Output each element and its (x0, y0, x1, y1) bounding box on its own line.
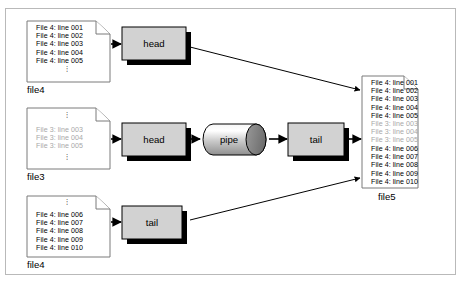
doc-dots-file3-bottom: ⋮ (36, 154, 98, 160)
doc-lines-file5-part3: File 4: line 006 File 4: line 007 File 4… (371, 145, 418, 186)
node-label-tail-mid: tail (288, 134, 344, 145)
doc-dots-file3-top: ⋮ (36, 112, 98, 118)
doc-label-file5: file5 (378, 191, 396, 202)
node-label-head-top: head (122, 38, 186, 49)
doc-lines-file4-top: File 4: line 001 File 4: line 002 File 4… (36, 24, 83, 65)
doc-lines-file3: File 3: line 003 File 3: line 004 File 3… (36, 126, 83, 151)
arrow-headtop-to-file5 (190, 47, 360, 90)
node-label-head-mid: head (122, 134, 186, 145)
doc-lines-file4-bottom: File 4: line 006 File 4: line 007 File 4… (36, 211, 83, 252)
doc-label-file4-bottom: file4 (27, 259, 45, 270)
doc-label-file3: file3 (27, 171, 45, 182)
arrow-tailbottom-to-file5 (190, 178, 360, 220)
doc-dots-file4-bottom-top: ⋮ (36, 199, 98, 205)
doc-label-file4-top: file4 (27, 84, 45, 95)
doc-dots-file4-top-bottom: ⋮ (36, 66, 98, 72)
doc-lines-file5-part2: File 3: line 003 File 3: line 004 File 3… (371, 120, 418, 145)
diagram-canvas: head head pipe tail tail File 4: line 00… (0, 0, 465, 288)
node-label-tail-bottom: tail (122, 217, 182, 228)
node-label-pipe: pipe (204, 134, 254, 145)
doc-lines-file5-part1: File 4: line 001 File 4: line 002 File 4… (371, 79, 418, 120)
